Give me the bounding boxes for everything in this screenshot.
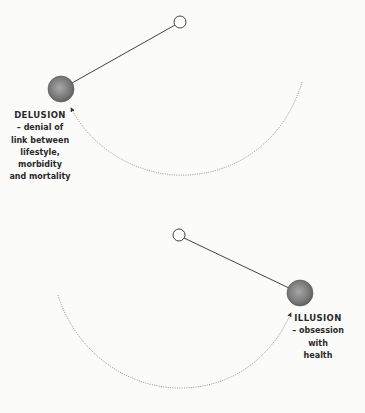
label-delusion-line: – denial of (2, 122, 78, 134)
label-illusion-title: ILLUSION (281, 312, 355, 324)
label-delusion: DELUSION – denial of link between lifest… (2, 109, 78, 184)
label-delusion-title: DELUSION (2, 109, 78, 121)
swing-arc-delusion (71, 82, 302, 175)
ball-illusion (287, 280, 313, 306)
label-delusion-line: and mortality (2, 171, 78, 183)
label-illusion-line: health (281, 350, 355, 362)
label-delusion-line: link between (2, 135, 78, 147)
pendulum-illusion (58, 229, 313, 388)
pendulum-rod-illusion (184, 238, 289, 288)
label-delusion-line: lifestyle, (2, 147, 78, 159)
pendulum-rod-delusion (72, 25, 175, 83)
ball-delusion (48, 76, 74, 102)
label-illusion: ILLUSION – obsession with health (281, 312, 355, 362)
label-illusion-line: – obsession (281, 325, 355, 337)
pivot-circle-illusion (173, 229, 185, 241)
label-illusion-line: with (281, 338, 355, 350)
swing-arc-illusion (58, 295, 291, 388)
pivot-circle-delusion (174, 16, 186, 28)
pendulum-delusion (48, 16, 302, 175)
label-delusion-line: morbidity (2, 159, 78, 171)
